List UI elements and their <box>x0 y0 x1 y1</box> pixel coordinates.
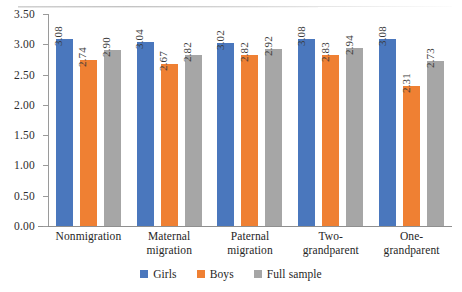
legend-label: Boys <box>210 268 234 280</box>
bar-groups: 3.082.742.903.042.672.823.022.822.923.08… <box>48 14 452 226</box>
y-axis-tick-label: 3.00 <box>14 38 35 50</box>
category-label-line: Maternal <box>129 230 210 244</box>
bar-boys[interactable]: 2.82 <box>241 55 258 226</box>
category-label-line: Two- <box>290 230 371 244</box>
bar-slot: 3.08 <box>298 14 315 226</box>
plot-area: 0.000.501.001.502.002.503.003.50 3.082.7… <box>48 14 452 226</box>
bar-slot: 3.08 <box>379 14 396 226</box>
bar-slot: 2.92 <box>265 14 282 226</box>
bar-group: 3.042.672.82 <box>129 14 210 226</box>
bar-fullsample[interactable]: 2.73 <box>427 61 444 226</box>
y-axis-tick-label: 0.50 <box>14 190 35 202</box>
bar-value-label: 2.82 <box>181 42 193 62</box>
y-axis-tick-label: 2.50 <box>14 69 35 81</box>
bar-boys[interactable]: 2.67 <box>161 64 178 226</box>
bar-girls[interactable]: 3.08 <box>298 39 315 226</box>
bar-girls[interactable]: 3.08 <box>56 39 73 226</box>
bar-girls[interactable]: 3.08 <box>379 39 396 226</box>
bar-boys[interactable]: 2.83 <box>322 55 339 226</box>
bar-value-label: 2.73 <box>424 48 436 68</box>
legend-label: Full sample <box>267 268 322 280</box>
bar-slot: 2.67 <box>161 14 178 226</box>
bar-fullsample[interactable]: 2.82 <box>185 55 202 226</box>
bar-slot: 2.94 <box>346 14 363 226</box>
bar-slot: 2.74 <box>80 14 97 226</box>
legend-swatch-icon <box>254 270 262 278</box>
bar-boys[interactable]: 2.31 <box>403 86 420 226</box>
bar-slot: 3.04 <box>137 14 154 226</box>
x-axis-line <box>38 226 452 227</box>
bar-value-label: 2.83 <box>319 42 331 62</box>
bar-group: 3.022.822.92 <box>210 14 291 226</box>
category-label-line: migration <box>129 244 210 258</box>
y-axis-tick-label: 1.50 <box>14 129 35 141</box>
bar-value-label: 2.94 <box>343 35 355 55</box>
y-axis-tick-label: 2.00 <box>14 99 35 111</box>
bar-slot: 2.90 <box>104 14 121 226</box>
bar-value-label: 3.02 <box>214 30 226 50</box>
bar-slot: 2.82 <box>241 14 258 226</box>
scan-artifact-line-secondary <box>18 7 318 8</box>
chart-figure: 0.000.501.001.502.002.503.003.50 3.082.7… <box>0 0 462 292</box>
category-label: Two-grandparent <box>290 230 371 257</box>
bar-slot: 2.31 <box>403 14 420 226</box>
bar-value-label: 3.04 <box>133 29 145 49</box>
bar-value-label: 2.82 <box>238 42 250 62</box>
legend-item-girls[interactable]: Girls <box>140 268 177 280</box>
bar-value-label: 3.08 <box>52 26 64 46</box>
x-axis-category-labels: NonmigrationMaternalmigrationPaternalmig… <box>48 230 452 257</box>
y-axis-tick-label: 1.00 <box>14 159 35 171</box>
y-axis-tick: 0.00 <box>43 226 48 227</box>
category-label-line: grandparent <box>371 244 452 258</box>
bar-value-label: 2.31 <box>400 73 412 93</box>
category-label: One-grandparent <box>371 230 452 257</box>
category-label-line: One- <box>371 230 452 244</box>
bar-slot: 3.02 <box>217 14 234 226</box>
bar-boys[interactable]: 2.74 <box>80 60 97 226</box>
legend-swatch-icon <box>140 270 148 278</box>
bar-fullsample[interactable]: 2.90 <box>104 50 121 226</box>
bar-girls[interactable]: 3.04 <box>137 42 154 226</box>
bar-value-label: 2.90 <box>100 37 112 57</box>
bar-fullsample[interactable]: 2.92 <box>265 49 282 226</box>
bar-value-label: 3.08 <box>295 26 307 46</box>
bar-group: 3.082.312.73 <box>371 14 452 226</box>
bar-value-label: 2.92 <box>262 36 274 56</box>
bar-girls[interactable]: 3.02 <box>217 43 234 226</box>
bar-value-label: 2.74 <box>76 47 88 67</box>
legend-item-fullsample[interactable]: Full sample <box>254 268 322 280</box>
category-label: Paternalmigration <box>210 230 291 257</box>
bar-slot: 2.73 <box>427 14 444 226</box>
bar-fullsample[interactable]: 2.94 <box>346 48 363 226</box>
bar-slot: 2.83 <box>322 14 339 226</box>
chart-legend: GirlsBoysFull sample <box>0 268 462 280</box>
legend-item-boys[interactable]: Boys <box>197 268 234 280</box>
legend-swatch-icon <box>197 270 205 278</box>
category-label-line: Nonmigration <box>48 230 129 244</box>
category-label: Maternalmigration <box>129 230 210 257</box>
y-axis-tick-label: 3.50 <box>14 8 35 20</box>
category-label-line: grandparent <box>290 244 371 258</box>
bar-group: 3.082.832.94 <box>290 14 371 226</box>
category-label: Nonmigration <box>48 230 129 257</box>
bar-slot: 3.08 <box>56 14 73 226</box>
y-axis-tick-label: 0.00 <box>14 220 35 232</box>
legend-label: Girls <box>153 268 177 280</box>
bar-slot: 2.82 <box>185 14 202 226</box>
bar-value-label: 2.67 <box>157 51 169 71</box>
category-label-line: Paternal <box>210 230 291 244</box>
category-label-line: migration <box>210 244 291 258</box>
bar-group: 3.082.742.90 <box>48 14 129 226</box>
bar-value-label: 3.08 <box>376 26 388 46</box>
